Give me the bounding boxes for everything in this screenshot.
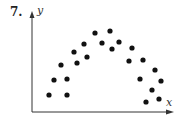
data-point bbox=[158, 78, 163, 83]
data-point bbox=[140, 57, 145, 62]
problem-number: 7. bbox=[10, 5, 23, 19]
data-point bbox=[64, 76, 69, 81]
data-point bbox=[152, 67, 157, 72]
data-point bbox=[116, 39, 121, 44]
data-point bbox=[109, 46, 114, 51]
plot-canvas bbox=[0, 0, 183, 121]
axes bbox=[30, 11, 175, 115]
data-point bbox=[64, 92, 69, 97]
data-point bbox=[71, 49, 76, 54]
scatter-plot: 7. y x bbox=[0, 0, 183, 121]
x-axis-label: x bbox=[166, 96, 172, 109]
data-point bbox=[58, 62, 63, 67]
data-point bbox=[92, 30, 97, 35]
data-point bbox=[51, 77, 56, 82]
data-point bbox=[143, 99, 148, 104]
data-point bbox=[81, 41, 86, 46]
data-point bbox=[107, 28, 112, 33]
data-point bbox=[126, 58, 131, 63]
data-point bbox=[129, 45, 134, 50]
x-axis-arrow-icon bbox=[166, 110, 174, 115]
y-axis-label: y bbox=[37, 4, 43, 17]
data-points bbox=[46, 28, 163, 104]
data-point bbox=[84, 54, 89, 59]
data-point bbox=[99, 40, 104, 45]
data-point bbox=[137, 76, 142, 81]
y-axis-arrow-icon bbox=[30, 11, 35, 18]
data-point bbox=[156, 96, 161, 101]
data-point bbox=[149, 87, 154, 92]
data-point bbox=[74, 60, 79, 65]
data-point bbox=[46, 92, 51, 97]
